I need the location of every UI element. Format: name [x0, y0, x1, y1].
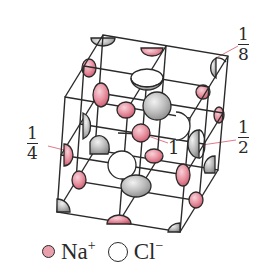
crystal-lattice — [0, 0, 274, 275]
denominator: 2 — [238, 139, 249, 156]
numerator: 1 — [238, 119, 249, 136]
legend-cl-label: Cl− — [134, 238, 164, 265]
denominator: 8 — [238, 46, 249, 63]
na-symbol: Na — [61, 239, 88, 264]
face-fraction-label: 1 2 — [238, 119, 249, 156]
cl-charge: − — [155, 238, 163, 253]
sodium-ion-icon — [42, 245, 55, 258]
body-center-label: 1 — [168, 137, 179, 158]
edge-fraction-label: 1 4 — [27, 125, 38, 162]
na-charge: + — [88, 238, 96, 253]
cl-symbol: Cl — [134, 239, 156, 264]
numerator: 1 — [27, 125, 38, 142]
denominator: 4 — [27, 145, 38, 162]
nacl-unit-cell-diagram: 1 8 1 4 1 2 1 Na+ Cl− — [0, 0, 274, 275]
legend: Na+ Cl− — [42, 238, 163, 265]
atoms-mid — [57, 69, 215, 232]
chloride-ion-icon — [108, 242, 128, 262]
legend-na-label: Na+ — [61, 238, 96, 265]
corner-fraction-label: 1 8 — [238, 26, 249, 63]
numerator: 1 — [238, 26, 249, 43]
